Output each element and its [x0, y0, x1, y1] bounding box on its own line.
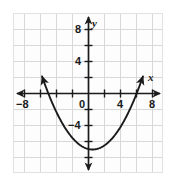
x-axis-name-label: x	[148, 72, 154, 83]
parabola-curve	[42, 76, 143, 149]
graph-canvas	[0, 0, 176, 185]
x-tick-label-neg8: −8	[16, 99, 29, 110]
y-tick-label-8: 8	[75, 24, 81, 35]
y-axis-name-label: y	[92, 18, 97, 29]
x-tick-label-0: 0	[79, 99, 85, 110]
y-tick-label-neg4: −4	[68, 120, 81, 131]
x-tick-label-4: 4	[117, 99, 123, 110]
graph-figure: x y −8 0 4 8 8 4 −4	[0, 0, 176, 185]
x-tick-label-8: 8	[149, 99, 155, 110]
y-tick-label-4: 4	[75, 56, 81, 67]
